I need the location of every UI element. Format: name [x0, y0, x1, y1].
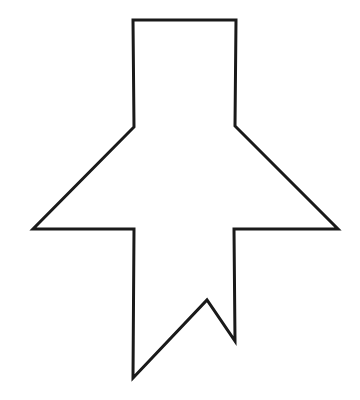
arrow-outline-figure: Upward arrow outline — [0, 0, 360, 400]
drawing-canvas: Upward arrow outline — [0, 0, 360, 400]
canvas-background — [0, 0, 360, 400]
